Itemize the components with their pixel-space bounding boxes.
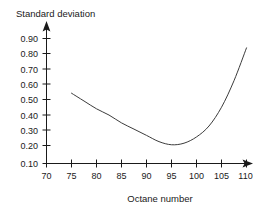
x-tick-label: 95 bbox=[166, 171, 176, 181]
chart-container: 0.90 0.80 0.70 0.60 0.50 0.40 0.30 0.20 … bbox=[0, 0, 268, 214]
x-tick-label: 90 bbox=[141, 171, 151, 181]
data-series-line bbox=[72, 48, 247, 145]
y-tick-label: 0.40 bbox=[20, 111, 38, 121]
x-tick-label: 80 bbox=[91, 171, 101, 181]
y-tick-label: 0.20 bbox=[20, 141, 38, 151]
y-tick-label: 0.30 bbox=[20, 126, 38, 136]
y-tick-label: 0.90 bbox=[20, 34, 38, 44]
x-tick-label: 105 bbox=[214, 171, 229, 181]
y-tick-label: 0.70 bbox=[20, 65, 38, 75]
x-tick-label: 85 bbox=[116, 171, 126, 181]
x-tick-label: 100 bbox=[189, 171, 204, 181]
x-tick-label: 70 bbox=[41, 171, 51, 181]
y-tick-label: 0.80 bbox=[20, 49, 38, 59]
x-tick-label: 110 bbox=[238, 171, 252, 181]
x-tick-label: 75 bbox=[66, 171, 76, 181]
x-axis-title: Octane number bbox=[127, 193, 192, 204]
y-tick-label: 0.50 bbox=[20, 95, 38, 105]
y-axis-title: Standard deviation bbox=[16, 8, 95, 19]
chart-plot: 0.90 0.80 0.70 0.60 0.50 0.40 0.30 0.20 … bbox=[0, 0, 268, 214]
y-tick-label: 0.10 bbox=[20, 159, 38, 169]
y-tick-label: 0.60 bbox=[20, 80, 38, 90]
